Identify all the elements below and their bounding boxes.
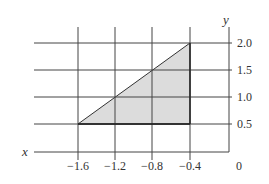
y-tick-label: 1.5 — [237, 63, 252, 77]
shaded-triangle — [78, 43, 190, 124]
x-tick-label: −0.4 — [179, 159, 201, 173]
chart: x y 2.0 1.5 1.0 0.5 −1.6 −1.2 −0.8 −0.4 … — [0, 0, 269, 184]
y-tick-label: 0.5 — [237, 117, 252, 131]
x-tick-label: −1.2 — [104, 159, 126, 173]
x-tick-label: −1.6 — [67, 159, 89, 173]
y-tick-label: 1.0 — [237, 90, 252, 104]
x-axis-label: x — [21, 144, 28, 159]
y-axis-label: y — [221, 12, 229, 27]
x-tick-label: 0 — [236, 159, 242, 173]
x-tick-label: −0.8 — [141, 159, 163, 173]
y-tick-label: 2.0 — [237, 36, 252, 50]
